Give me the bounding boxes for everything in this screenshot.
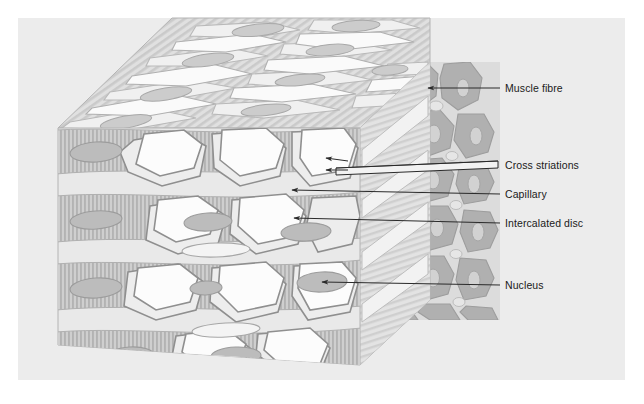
- block-front-face: [56, 128, 362, 372]
- label-muscle-fibre: Muscle fibre: [505, 82, 563, 94]
- label-nucleus: Nucleus: [505, 279, 544, 291]
- label-intercalated-disc: Intercalated disc: [505, 217, 583, 229]
- cardiac-muscle-illustration: [0, 0, 644, 404]
- figure-canvas: Muscle fibre Cross striations Capillary …: [0, 0, 644, 404]
- label-capillary: Capillary: [505, 188, 547, 200]
- label-cross-striations: Cross striations: [505, 159, 579, 171]
